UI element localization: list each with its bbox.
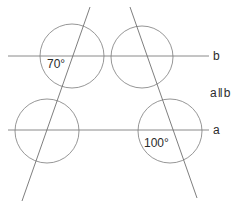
geometry-diagram: 70° 100° b a a‖b	[0, 0, 240, 205]
angle-label-100: 100°	[144, 137, 169, 149]
angle-label-70: 70°	[47, 58, 65, 70]
parallel-bars-icon: ‖	[217, 87, 224, 99]
circle-top-right	[111, 26, 173, 88]
circle-bottom-right	[138, 99, 202, 163]
line-label-a: a	[213, 124, 220, 136]
transversal-left	[22, 7, 90, 201]
transversal-right	[130, 7, 197, 198]
geometry-canvas	[0, 0, 240, 205]
relation-right-line: b	[224, 86, 231, 100]
line-label-b: b	[213, 50, 220, 62]
parallel-relation: a‖b	[210, 87, 230, 99]
lines-group	[8, 7, 209, 201]
relation-left-line: a	[210, 86, 217, 100]
